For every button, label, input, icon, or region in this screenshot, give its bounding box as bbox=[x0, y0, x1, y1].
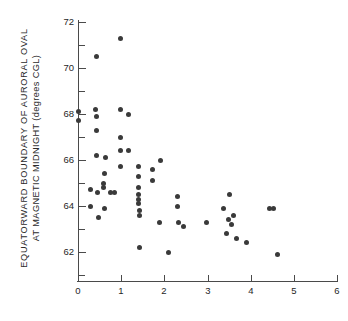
data-point bbox=[118, 36, 123, 41]
y-tick-label-host: 68 bbox=[52, 108, 74, 120]
plot-area bbox=[78, 22, 337, 281]
data-point bbox=[118, 135, 123, 140]
data-point bbox=[126, 148, 131, 153]
data-point bbox=[118, 107, 123, 112]
data-point bbox=[103, 155, 108, 160]
y-axis-label-line1: EQUATORWARD BOUNDARY OF AURORAL OVAL bbox=[19, 28, 31, 267]
data-point bbox=[88, 187, 93, 192]
y-tick-label: 70 bbox=[54, 62, 74, 73]
y-tick-label-host: 66 bbox=[52, 154, 74, 166]
data-point bbox=[136, 174, 141, 179]
data-point bbox=[76, 109, 81, 114]
data-point bbox=[118, 164, 123, 169]
data-point bbox=[94, 54, 99, 59]
data-point bbox=[234, 236, 239, 241]
data-point bbox=[94, 114, 99, 119]
data-point bbox=[101, 185, 106, 190]
data-point bbox=[76, 118, 81, 123]
data-point bbox=[150, 167, 155, 172]
x-tick-label: 3 bbox=[198, 285, 218, 296]
x-tick-label: 1 bbox=[111, 285, 131, 296]
data-point bbox=[137, 245, 142, 250]
data-point bbox=[102, 206, 107, 211]
data-point bbox=[271, 206, 276, 211]
data-point bbox=[157, 220, 162, 225]
y-tick-label-host: 70 bbox=[52, 62, 74, 74]
data-point bbox=[93, 107, 98, 112]
data-point bbox=[175, 194, 180, 199]
data-point bbox=[102, 171, 107, 176]
y-tick-label: 68 bbox=[54, 108, 74, 119]
data-point bbox=[137, 213, 142, 218]
x-tick-label: 5 bbox=[284, 285, 304, 296]
data-point bbox=[227, 192, 232, 197]
data-point bbox=[118, 148, 123, 153]
x-tick bbox=[337, 275, 338, 281]
data-point bbox=[229, 222, 234, 227]
data-point bbox=[150, 178, 155, 183]
x-tick-label: 6 bbox=[327, 285, 347, 296]
data-point bbox=[158, 158, 163, 163]
y-axis-label: EQUATORWARD BOUNDARY OF AURORAL OVAL AT … bbox=[0, 0, 56, 300]
data-point bbox=[94, 153, 99, 158]
x-tick-label: 4 bbox=[241, 285, 261, 296]
data-point bbox=[224, 231, 229, 236]
y-tick-label: 66 bbox=[54, 154, 74, 165]
x-tick-label: 2 bbox=[154, 285, 174, 296]
data-point bbox=[95, 190, 100, 195]
data-point bbox=[244, 240, 249, 245]
x-tick-label: 0 bbox=[68, 285, 88, 296]
y-axis-label-line2: AT MAGNETIC MIDNIGHT (degrees CGL) bbox=[31, 55, 43, 242]
data-point bbox=[112, 190, 117, 195]
data-point bbox=[181, 224, 186, 229]
data-point bbox=[275, 252, 280, 257]
y-tick-label: 64 bbox=[54, 200, 74, 211]
data-point bbox=[231, 213, 236, 218]
data-point bbox=[136, 185, 141, 190]
data-point bbox=[136, 164, 141, 169]
data-point bbox=[166, 250, 171, 255]
data-point bbox=[136, 201, 141, 206]
y-tick-label: 72 bbox=[54, 16, 74, 27]
y-tick-label: 62 bbox=[54, 246, 74, 257]
data-point bbox=[96, 215, 101, 220]
data-point bbox=[204, 220, 209, 225]
data-point bbox=[221, 206, 226, 211]
data-point bbox=[126, 112, 131, 117]
y-tick-label-host: 64 bbox=[52, 200, 74, 212]
data-point bbox=[176, 220, 181, 225]
data-point bbox=[88, 204, 93, 209]
y-tick-label-host: 72 bbox=[52, 16, 74, 28]
data-point bbox=[94, 128, 99, 133]
data-point bbox=[175, 204, 180, 209]
scatter-plot-figure: EQUATORWARD BOUNDARY OF AURORAL OVAL AT … bbox=[0, 0, 348, 321]
y-tick-label-host: 62 bbox=[52, 246, 74, 258]
x-axis-line bbox=[77, 281, 338, 282]
